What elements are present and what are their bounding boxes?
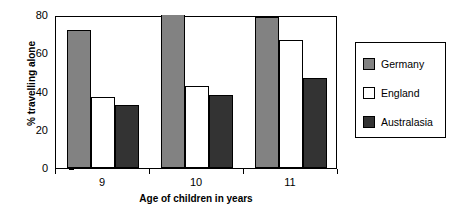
y-axis-tick-label: 60	[24, 48, 48, 59]
bar-germany-10[interactable]	[161, 15, 185, 168]
x-axis-tick-mark	[149, 169, 150, 174]
bar-group	[161, 17, 233, 168]
x-axis-title: Age of children in years	[55, 193, 337, 204]
y-axis-tick-label: 0	[24, 163, 48, 174]
bar-australasia-9[interactable]	[115, 105, 139, 168]
bar-germany-11[interactable]	[255, 17, 279, 168]
bar-group	[255, 17, 327, 168]
legend-item-germany[interactable]: Germany	[363, 51, 445, 77]
bar-england-10[interactable]	[185, 86, 209, 168]
plot-frame	[55, 16, 337, 169]
legend-item-label: England	[381, 87, 420, 99]
y-axis-tick-labels: 020406080	[20, 0, 48, 214]
legend-item-label: Australasia	[381, 116, 433, 128]
legend-item-england[interactable]: England	[363, 80, 445, 106]
bar-germany-9[interactable]	[67, 30, 91, 168]
x-axis-tick-label: 11	[270, 176, 310, 188]
y-axis-tick-label: 40	[24, 87, 48, 98]
legend-swatch-icon	[363, 116, 375, 128]
y-axis-tick-label: 80	[24, 10, 48, 21]
x-axis-tick-mark	[337, 169, 338, 174]
legend-item-australasia[interactable]: Australasia	[363, 109, 445, 135]
legend-swatch-icon	[363, 87, 375, 99]
x-axis-tick-label: 10	[176, 176, 216, 188]
bar-australasia-11[interactable]	[303, 78, 327, 168]
y-axis-tick-mark	[69, 169, 74, 170]
bar-england-11[interactable]	[279, 40, 303, 168]
legend-item-label: Germany	[381, 58, 424, 70]
chart-legend: GermanyEnglandAustralasia	[355, 42, 446, 138]
bar-england-9[interactable]	[91, 97, 115, 168]
plot-area	[56, 17, 336, 168]
x-axis-tick-mark	[243, 169, 244, 174]
y-axis-tick-label: 20	[24, 125, 48, 136]
x-axis-tick-label: 9	[82, 176, 122, 188]
bar-group	[67, 17, 139, 168]
bar-australasia-10[interactable]	[209, 95, 233, 168]
x-axis-tick-mark	[55, 169, 56, 174]
bar-chart-figure: % travelling alone 020406080 91011 Age o…	[0, 0, 455, 214]
legend-swatch-icon	[363, 58, 375, 70]
